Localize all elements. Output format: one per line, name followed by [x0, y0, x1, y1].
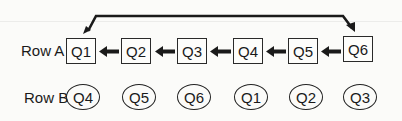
- left-arrow-q2-q1: [99, 46, 119, 57]
- row-b-ellipse-2: Q5: [122, 84, 156, 110]
- row-a-box-1: Q1: [66, 38, 96, 64]
- row-b-ellipse-5: Q2: [289, 84, 323, 110]
- row-a-label: Row A: [21, 42, 64, 60]
- row-a-box-6: Q6: [343, 36, 373, 62]
- row-b-label: Row B: [24, 89, 68, 107]
- wraparound-arrow: [83, 16, 355, 34]
- row-b-ellipse-6: Q3: [343, 84, 377, 110]
- row-a-box-4: Q4: [233, 38, 263, 64]
- left-arrow-q5-q4: [266, 46, 286, 57]
- row-b-ellipse-1: Q4: [66, 84, 100, 110]
- row-a-box-3: Q3: [177, 38, 207, 64]
- row-b-ellipse-3: Q6: [177, 84, 211, 110]
- left-arrow-q6-q5: [321, 46, 341, 57]
- left-arrow-q4-q3: [210, 46, 231, 57]
- left-arrow-q3-q2: [155, 46, 175, 57]
- row-a-box-5: Q5: [288, 38, 318, 64]
- row-b-ellipse-4: Q1: [234, 84, 268, 110]
- row-a-box-2: Q2: [121, 38, 151, 64]
